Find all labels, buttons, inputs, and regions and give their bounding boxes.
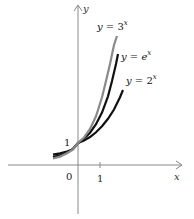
y-tick-label: 1	[64, 137, 70, 148]
svg-text:y = ex: y = ex	[120, 49, 151, 62]
svg-text:y = 3x: y = 3x	[96, 19, 128, 32]
exponential-graph: y x 0 1 1 y = 3x y = ex y = 2x	[0, 0, 194, 219]
svg-text:y = 2x: y = 2x	[125, 73, 157, 86]
label-3-pow-x: y = 3x	[96, 19, 128, 32]
label-e-pow-x: y = ex	[120, 49, 151, 62]
label-2-pow-x: y = 2x	[125, 73, 157, 86]
x-axis-label: x	[174, 171, 180, 182]
y-axis-label: y	[82, 3, 89, 14]
origin-label: 0	[66, 171, 72, 182]
x-tick-label: 1	[97, 173, 103, 184]
